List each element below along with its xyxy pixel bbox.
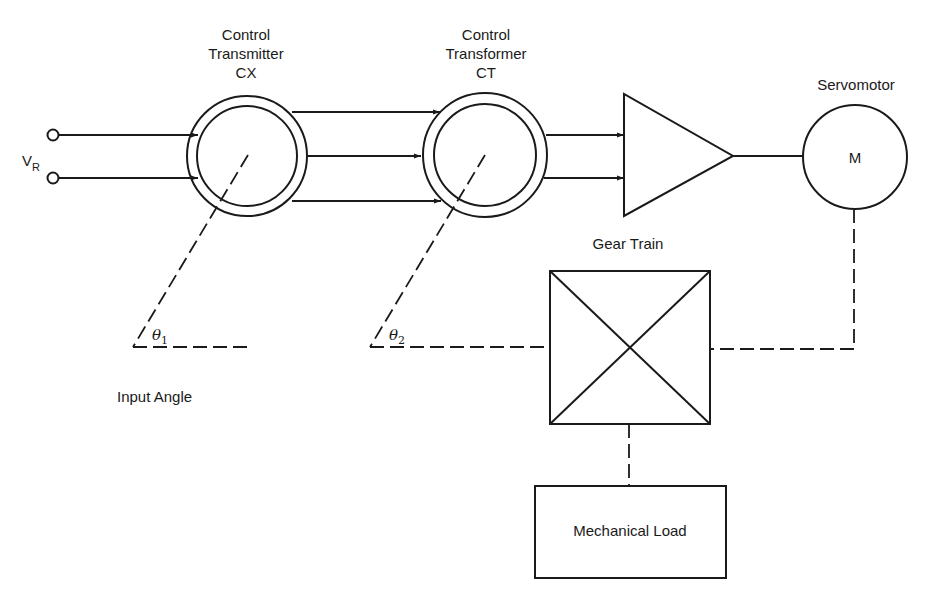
theta1-angle: θ1: [133, 326, 248, 347]
ct-label-line1: Control: [462, 26, 510, 43]
cx-label-line1: Control: [222, 26, 270, 43]
theta1-label: θ1: [152, 326, 168, 347]
cx-label-line3: CX: [236, 64, 257, 81]
cx-ct-wires: [292, 112, 441, 201]
input-terminals: VR: [22, 130, 198, 184]
control-transformer: Control Transformer CT: [370, 26, 547, 347]
terminal-top: [48, 130, 59, 141]
theta2-angle: θ2: [389, 326, 405, 347]
cx-label-line2: Transmitter: [208, 45, 283, 62]
gear-train: Gear Train: [370, 235, 710, 486]
motor-shaft: [710, 209, 854, 349]
ct-rotor-shaft: [370, 155, 485, 347]
gear-train-label: Gear Train: [593, 235, 664, 252]
mechanical-load-label: Mechanical Load: [573, 522, 686, 539]
cx-rotor-shaft: [133, 155, 248, 347]
theta2-label: θ2: [389, 326, 405, 347]
servomotor-label: Servomotor: [817, 76, 895, 93]
control-transmitter: Control Transmitter CX: [133, 26, 307, 347]
servo-system-diagram: VR Control Transmitter CX Control Transf…: [0, 0, 929, 607]
motor-symbol: M: [849, 149, 862, 166]
vr-label: VR: [22, 152, 40, 173]
amplifier-triangle: [624, 94, 733, 216]
ct-label-line2: Transformer: [445, 45, 526, 62]
ct-amp-wires: [544, 135, 624, 178]
servomotor: Servomotor M: [710, 76, 907, 349]
terminal-bottom: [48, 173, 59, 184]
mechanical-load: Mechanical Load: [535, 486, 726, 578]
input-angle-label: Input Angle: [117, 388, 192, 405]
ct-label-line3: CT: [476, 64, 496, 81]
